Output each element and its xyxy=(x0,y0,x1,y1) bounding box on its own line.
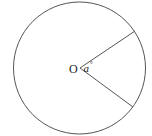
angle-label: a xyxy=(84,62,90,74)
circle xyxy=(14,2,146,134)
circle-diagram: O a ° xyxy=(0,0,152,136)
degree-mark: ° xyxy=(90,60,93,68)
center-label: O xyxy=(69,62,78,76)
